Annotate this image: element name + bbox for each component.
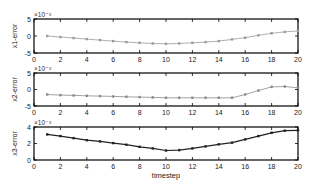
data-marker bbox=[284, 31, 286, 33]
data-marker bbox=[284, 130, 286, 132]
data-marker bbox=[191, 97, 193, 99]
x-tick-label: 10 bbox=[162, 56, 170, 63]
y-tick-label: 2 bbox=[27, 140, 31, 147]
data-marker bbox=[178, 149, 180, 151]
data-marker bbox=[270, 86, 272, 88]
y-axis-label: x2-error bbox=[11, 77, 18, 102]
data-marker bbox=[191, 42, 193, 44]
data-marker bbox=[112, 40, 114, 42]
data-marker bbox=[244, 37, 246, 39]
axes-box bbox=[34, 127, 298, 160]
data-marker bbox=[204, 145, 206, 147]
data-marker bbox=[270, 32, 272, 34]
data-marker bbox=[112, 142, 114, 144]
x-tick-label: 16 bbox=[241, 109, 249, 116]
data-marker bbox=[231, 141, 233, 143]
x-tick-label: 8 bbox=[138, 109, 142, 116]
x-tick-label: 20 bbox=[294, 163, 302, 170]
data-marker bbox=[191, 147, 193, 149]
x-tick-label: 8 bbox=[138, 163, 142, 170]
x-tick-label: 6 bbox=[111, 109, 115, 116]
x-tick-label: 18 bbox=[268, 163, 276, 170]
y-tick-label: 0 bbox=[27, 157, 31, 164]
data-marker bbox=[218, 143, 220, 145]
data-marker bbox=[72, 37, 74, 39]
data-marker bbox=[152, 147, 154, 149]
x-tick-label: 2 bbox=[58, 56, 62, 63]
subplot-1: 02468101214161820-505×10⁻³x1-error bbox=[11, 11, 302, 63]
data-marker bbox=[178, 42, 180, 44]
x-tick-label: 4 bbox=[85, 109, 89, 116]
data-marker bbox=[72, 94, 74, 96]
x-tick-label: 12 bbox=[189, 109, 197, 116]
y-tick-label: 4 bbox=[27, 124, 31, 131]
y-axis-label: x1-error bbox=[11, 23, 18, 48]
data-marker bbox=[297, 129, 299, 131]
x-tick-label: 0 bbox=[32, 109, 36, 116]
y-tick-label: 5 bbox=[27, 16, 31, 23]
x-tick-label: 4 bbox=[85, 56, 89, 63]
x-tick-label: 18 bbox=[268, 109, 276, 116]
data-marker bbox=[178, 97, 180, 99]
data-marker bbox=[297, 87, 299, 89]
data-marker bbox=[204, 97, 206, 99]
x-tick-label: 12 bbox=[189, 163, 197, 170]
x-axis-label: timestep bbox=[152, 171, 180, 180]
data-marker bbox=[86, 38, 88, 40]
data-marker bbox=[138, 146, 140, 148]
data-marker bbox=[59, 135, 61, 137]
figure: 02468101214161820-505×10⁻³x1-error024681… bbox=[0, 0, 317, 187]
data-marker bbox=[257, 34, 259, 36]
x-tick-label: 16 bbox=[241, 56, 249, 63]
x-tick-label: 2 bbox=[58, 163, 62, 170]
y-scale-label: ×10⁻³ bbox=[34, 119, 52, 126]
data-marker bbox=[244, 138, 246, 140]
x-tick-label: 6 bbox=[111, 163, 115, 170]
data-marker bbox=[138, 42, 140, 44]
x-tick-label: 14 bbox=[215, 56, 223, 63]
data-marker bbox=[99, 39, 101, 41]
data-marker bbox=[125, 96, 127, 98]
y-tick-label: 0 bbox=[27, 33, 31, 40]
y-tick-label: 0 bbox=[27, 86, 31, 93]
subplot-3: 02468101214161820024×10⁻³x3-errortimeste… bbox=[11, 119, 302, 180]
data-marker bbox=[284, 85, 286, 87]
data-marker bbox=[138, 96, 140, 98]
data-marker bbox=[72, 137, 74, 139]
x-tick-label: 14 bbox=[215, 163, 223, 170]
y-axis-label: x3-error bbox=[11, 131, 18, 156]
x-tick-label: 10 bbox=[162, 109, 170, 116]
data-marker bbox=[125, 144, 127, 146]
x-tick-label: 4 bbox=[85, 163, 89, 170]
data-marker bbox=[165, 149, 167, 151]
x-tick-label: 0 bbox=[32, 56, 36, 63]
data-marker bbox=[165, 43, 167, 45]
data-marker bbox=[231, 38, 233, 40]
data-marker bbox=[244, 93, 246, 95]
data-marker bbox=[86, 95, 88, 97]
data-marker bbox=[218, 97, 220, 99]
data-marker bbox=[231, 97, 233, 99]
data-marker bbox=[46, 35, 48, 37]
subplot-2: 02468101214161820-505×10⁻³x2-error bbox=[11, 65, 302, 116]
data-marker bbox=[257, 89, 259, 91]
x-tick-label: 20 bbox=[294, 109, 302, 116]
y-scale-label: ×10⁻³ bbox=[34, 65, 52, 72]
data-marker bbox=[218, 40, 220, 42]
data-marker bbox=[86, 139, 88, 141]
y-tick-label: 5 bbox=[27, 70, 31, 77]
data-marker bbox=[270, 132, 272, 134]
x-tick-label: 10 bbox=[162, 163, 170, 170]
x-tick-label: 16 bbox=[241, 163, 249, 170]
data-marker bbox=[59, 94, 61, 96]
x-tick-label: 20 bbox=[294, 56, 302, 63]
data-marker bbox=[204, 41, 206, 43]
y-tick-label: -5 bbox=[25, 103, 31, 110]
data-marker bbox=[257, 135, 259, 137]
data-marker bbox=[112, 95, 114, 97]
x-tick-label: 18 bbox=[268, 56, 276, 63]
x-tick-label: 0 bbox=[32, 163, 36, 170]
data-marker bbox=[152, 96, 154, 98]
x-tick-label: 12 bbox=[189, 56, 197, 63]
data-marker bbox=[125, 41, 127, 43]
